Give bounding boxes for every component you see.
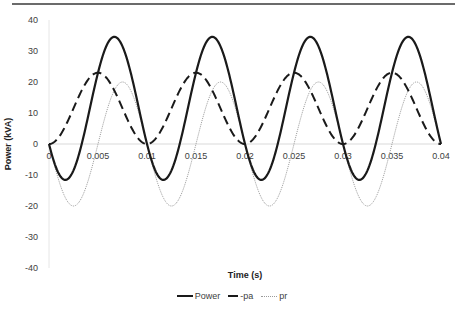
x-tick-label: 0.005 (87, 151, 110, 161)
x-tick-label: 0.02 (236, 151, 254, 161)
series-layer (49, 37, 441, 206)
x-axis-title: Time (s) (228, 270, 262, 280)
y-tick-label: 10 (28, 108, 38, 118)
y-tick-label: 20 (28, 77, 38, 87)
legend-item-pr: pr (261, 291, 287, 301)
legend-label: -pa (240, 291, 253, 301)
solid-line-swatch-icon (177, 295, 193, 297)
y-tick-label: 30 (28, 46, 38, 56)
x-tick-label: 0.035 (381, 151, 404, 161)
legend-label: pr (279, 291, 287, 301)
y-axis-title: Power (kVA) (3, 118, 13, 170)
y-tick-label: -20 (25, 201, 38, 211)
y-tick-label: -10 (25, 170, 38, 180)
x-tick-label: 0.01 (138, 151, 156, 161)
y-tick-label: -40 (25, 263, 38, 273)
legend-item-power: Power (177, 291, 221, 301)
series-neg-pa (49, 73, 441, 144)
legend-label: Power (195, 291, 221, 301)
y-tick-label: -30 (25, 232, 38, 242)
y-tick-label: 0 (33, 139, 38, 149)
y-tick-labels: 403020100-10-20-30-40 (25, 15, 38, 273)
x-tick-label: 0.03 (334, 151, 352, 161)
x-tick-label: 0.015 (185, 151, 208, 161)
dotted-line-swatch-icon (261, 296, 277, 297)
x-tick-label: 0.04 (432, 151, 450, 161)
legend-item-pa: -pa (228, 291, 253, 301)
dashed-line-swatch-icon (228, 295, 238, 297)
y-tick-label: 40 (28, 15, 38, 25)
x-tick-label: 0.025 (283, 151, 306, 161)
power-line-chart: 403020100-10-20-30-40 00.0050.010.0150.0… (0, 0, 464, 322)
legend: Power -pa pr (0, 291, 464, 301)
